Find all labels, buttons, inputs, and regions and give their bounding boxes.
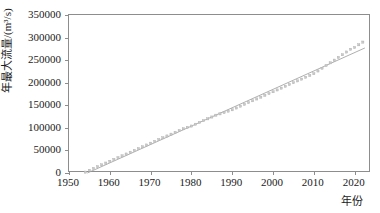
y-axis-title: 年最大流量/(m³/s) [0, 8, 14, 93]
x-axis-tick-labels: 19501960197019801990200020102020 [0, 0, 380, 213]
x-axis-tick-label: 1980 [179, 176, 201, 188]
x-axis-tick-label: 1970 [139, 176, 161, 188]
x-axis-tick-label: 1960 [98, 176, 120, 188]
x-axis-title: 年份 [341, 192, 363, 208]
x-axis-tick-label: 2000 [261, 176, 283, 188]
x-axis-tick-label: 1950 [57, 176, 79, 188]
chart-figure: 0500001000001500002000002500003000003500… [0, 0, 380, 213]
x-axis-tick-label: 1990 [220, 176, 242, 188]
x-axis-tick-label: 2020 [343, 176, 365, 188]
x-axis-tick-label: 2010 [302, 176, 324, 188]
